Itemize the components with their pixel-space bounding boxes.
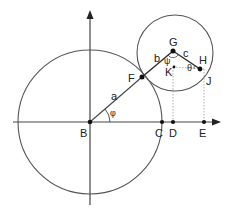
label-G: G	[169, 36, 178, 48]
label-H: H	[199, 54, 207, 66]
y-axis-arrow-icon	[87, 10, 94, 19]
label-phi: φ	[110, 108, 116, 118]
point-E	[202, 120, 206, 124]
point-B	[88, 120, 93, 125]
label-a: a	[111, 90, 118, 102]
point-C	[160, 120, 164, 124]
label-theta: θ	[187, 63, 192, 73]
label-psi: ψ	[164, 56, 170, 66]
label-K: K	[165, 66, 173, 78]
point-H	[198, 67, 203, 72]
point-K	[173, 66, 176, 69]
linkage-diagram: B C D E F G H J K a b c φ ψ θ	[0, 0, 236, 221]
label-c: c	[183, 47, 189, 59]
point-D	[171, 120, 175, 124]
label-b: b	[154, 52, 160, 64]
label-B: B	[80, 127, 87, 139]
diagram-canvas: B C D E F G H J K a b c φ ψ θ	[0, 0, 236, 221]
label-F: F	[128, 72, 135, 84]
label-J: J	[206, 75, 212, 87]
x-axis-arrow-icon	[212, 119, 221, 126]
point-F	[140, 75, 145, 80]
point-G	[171, 49, 176, 54]
label-C: C	[155, 127, 163, 139]
label-D: D	[169, 127, 177, 139]
label-E: E	[199, 127, 206, 139]
